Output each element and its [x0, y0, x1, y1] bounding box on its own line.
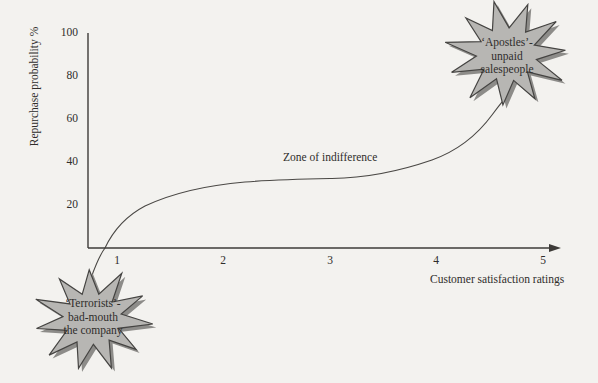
- y-tick-label-40: 40: [48, 155, 78, 168]
- y-tick-label-20: 20: [48, 198, 78, 211]
- x-tick-label-1: 1: [105, 254, 129, 267]
- y-axis-title: Repurchase probability %: [28, 25, 41, 149]
- apostles-callout-text: ‘Apostles’- unpaid salespeople: [457, 36, 557, 77]
- apostles-line-3: salespeople: [457, 63, 557, 77]
- y-tick-label-60: 60: [48, 112, 78, 125]
- zone-of-indifference-label: Zone of indifference: [283, 151, 377, 164]
- y-tick-label-80: 80: [48, 69, 78, 82]
- x-tick-label-4: 4: [424, 254, 448, 267]
- terrorists-line-2: bad-mouth: [43, 311, 143, 325]
- x-tick-label-2: 2: [211, 254, 235, 267]
- terrorists-line-3: the company: [43, 324, 143, 338]
- x-tick-label-3: 3: [318, 254, 342, 267]
- apostles-line-2: unpaid: [457, 50, 557, 64]
- x-tick-label-5: 5: [531, 254, 555, 267]
- x-axis-arrow-icon: [549, 244, 561, 252]
- figure-satisfaction-repurchase-chart: 100 80 60 40 20 1 2 3 4 5 Repurchase pro…: [0, 0, 598, 383]
- y-tick-label-100: 100: [48, 26, 78, 39]
- curve-line: [91, 93, 510, 278]
- apostles-line-1: ‘Apostles’-: [457, 36, 557, 50]
- terrorists-callout-text: ‘Terrorists’- bad-mouth the company: [43, 297, 143, 338]
- x-axis-title: Customer satisfaction ratings: [430, 273, 564, 286]
- terrorists-line-1: ‘Terrorists’-: [43, 297, 143, 311]
